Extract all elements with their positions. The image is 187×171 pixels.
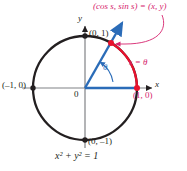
point-label-left: (–1, 0) <box>2 81 26 90</box>
point-left <box>30 85 35 90</box>
x-axis-label: x <box>155 80 159 89</box>
circle-equation: x² + y² = 1 <box>55 151 98 161</box>
callout-curve <box>116 15 164 44</box>
origin-label: 0 <box>74 90 79 99</box>
unit-circle-figure: (cos s, sin s) = (x, y) s = θ θ y x 0 (0… <box>0 0 187 171</box>
coordinate-label: (cos s, sin s) = (x, y) <box>93 2 167 11</box>
point-bottom <box>82 137 87 142</box>
point-label-top: (0, 1) <box>89 29 109 38</box>
point-label-right: (1, 0) <box>133 91 153 100</box>
point-top <box>82 33 87 38</box>
arc-label: s = θ <box>129 58 148 67</box>
point-label-bottom: (0, –1) <box>88 137 112 146</box>
theta-label: θ <box>103 63 107 72</box>
point-on-arc <box>108 40 114 46</box>
y-axis-label: y <box>78 14 82 23</box>
